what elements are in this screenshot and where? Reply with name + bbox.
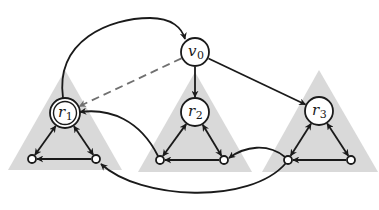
node-a1	[28, 155, 36, 163]
node-b1	[92, 155, 100, 163]
node-v0: v0	[181, 38, 209, 66]
node-b2	[220, 156, 228, 164]
node-r2: r2	[181, 98, 209, 126]
graph-diagram: v0r1r2r3	[0, 0, 379, 210]
edge-v0-to-r1	[79, 58, 181, 106]
node-r3: r3	[305, 97, 333, 125]
edge-v0-to-r3	[209, 58, 306, 104]
node-a3	[284, 156, 292, 164]
node-b3	[347, 156, 355, 164]
edge-r1-to-v0	[62, 18, 185, 98]
node-r1: r1	[50, 98, 80, 128]
node-a2	[156, 156, 164, 164]
graph-svg: v0r1r2r3	[0, 0, 379, 210]
